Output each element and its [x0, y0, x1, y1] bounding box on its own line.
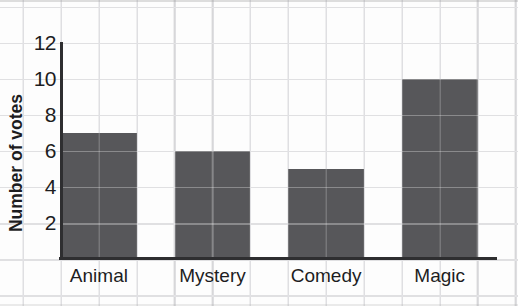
- category-label: Animal: [70, 265, 128, 287]
- bar-magic: [402, 79, 478, 259]
- y-axis-line: [60, 42, 63, 260]
- x-axis-line: [59, 257, 498, 260]
- y-axis-title: Number of votes: [6, 94, 27, 232]
- bar-comedy: [288, 169, 364, 259]
- bar-chart: 24681012 AnimalMysteryComedyMagic Number…: [0, 0, 518, 306]
- category-label: Magic: [414, 265, 465, 287]
- scan-edge-top-artifact: [0, 0, 518, 2]
- y-tick-label: 10: [8, 67, 56, 91]
- y-tick-label: 12: [8, 31, 56, 55]
- category-label: Mystery: [179, 265, 246, 287]
- bar-animal: [61, 133, 137, 259]
- bar-mystery: [175, 151, 251, 259]
- category-label: Comedy: [291, 265, 362, 287]
